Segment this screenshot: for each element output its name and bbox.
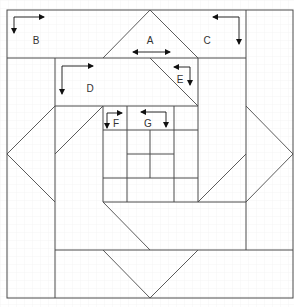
label-e: E — [177, 74, 184, 85]
quilt-block-diagram: ABCDEFG — [0, 0, 294, 307]
label-d: D — [86, 83, 93, 94]
label-g: G — [144, 118, 152, 129]
label-b: B — [33, 35, 40, 46]
label-a: A — [147, 35, 154, 46]
label-f: F — [113, 118, 119, 129]
label-c: C — [203, 35, 210, 46]
